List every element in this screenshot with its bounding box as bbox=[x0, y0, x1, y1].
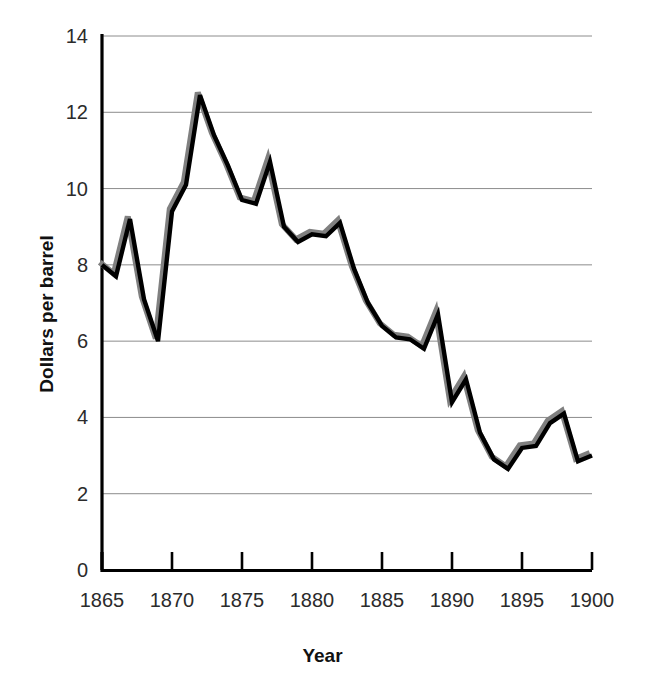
y-tick-label: 10 bbox=[40, 179, 88, 199]
y-tick-label: 2 bbox=[40, 484, 88, 504]
chart-plot-area bbox=[0, 0, 645, 691]
y-axis-title: Dollars per barrel bbox=[36, 204, 58, 424]
x-tick-label: 1890 bbox=[430, 590, 475, 610]
price-series-shadow bbox=[100, 93, 590, 467]
x-tick-label: 1900 bbox=[570, 590, 615, 610]
y-tick-label: 12 bbox=[40, 102, 88, 122]
x-axis-ticks bbox=[102, 552, 592, 570]
y-tick-label: 0 bbox=[40, 560, 88, 580]
x-tick-label: 1895 bbox=[500, 590, 545, 610]
x-tick-label: 1885 bbox=[360, 590, 405, 610]
gridlines bbox=[102, 36, 592, 494]
x-axis-title: Year bbox=[0, 645, 645, 667]
oil-price-line-chart: 02468101214 1865187018751880188518901895… bbox=[0, 0, 645, 691]
x-tick-label: 1880 bbox=[290, 590, 335, 610]
y-tick-label: 14 bbox=[40, 26, 88, 46]
x-tick-label: 1865 bbox=[80, 590, 125, 610]
price-series-line bbox=[102, 95, 592, 469]
x-tick-label: 1875 bbox=[220, 590, 265, 610]
x-tick-label: 1870 bbox=[150, 590, 195, 610]
